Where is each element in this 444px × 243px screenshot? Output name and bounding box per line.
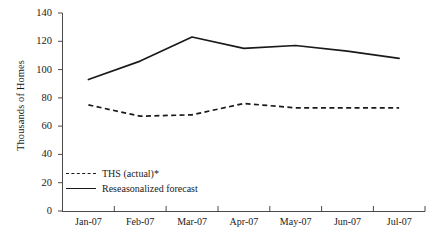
x-tick-jan-07: Jan-07	[75, 216, 102, 227]
legend-label-ths-actual: THS (actual)*	[102, 168, 159, 179]
x-tick-may-07: May-07	[280, 216, 312, 227]
series-line-reseasonalized-forecast	[88, 37, 399, 80]
series-line-ths-actual	[88, 104, 399, 117]
plot-area	[0, 0, 444, 243]
y-axis-ticks	[58, 13, 63, 211]
x-tick-jun-07: Jun-07	[334, 216, 361, 227]
line-chart: Thousands of Homes 140 120 100 80 60 40 …	[0, 0, 444, 243]
x-tick-apr-07: Apr-07	[230, 216, 259, 227]
x-tick-mar-07: Mar-07	[177, 216, 207, 227]
legend-item-ths-actual: THS (actual)*	[66, 166, 198, 181]
legend: THS (actual)* Reseasonalized forecast	[66, 166, 198, 196]
legend-swatch-dashed-icon	[66, 173, 96, 174]
legend-item-reseasonalized-forecast: Reseasonalized forecast	[66, 181, 198, 196]
x-tick-jul-07: Jul-07	[387, 216, 412, 227]
legend-swatch-solid-icon	[66, 188, 96, 189]
x-axis-ticks	[63, 206, 426, 212]
x-tick-feb-07: Feb-07	[126, 216, 154, 227]
legend-label-reseasonalized-forecast: Reseasonalized forecast	[102, 183, 198, 194]
